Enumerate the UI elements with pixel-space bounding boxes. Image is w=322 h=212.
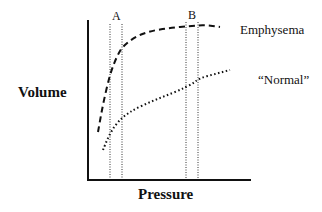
marker-a-label: A [112, 9, 121, 24]
marker-a-lines [110, 24, 122, 179]
emphysema-legend-label: Emphysema [240, 22, 304, 38]
emphysema-curve [98, 25, 220, 132]
x-axis-label: Pressure [138, 186, 193, 203]
y-axis-label: Volume [18, 84, 67, 101]
marker-b-label: B [188, 8, 196, 23]
normal-legend-label: “Normal” [258, 72, 309, 88]
marker-b-lines [186, 22, 198, 179]
